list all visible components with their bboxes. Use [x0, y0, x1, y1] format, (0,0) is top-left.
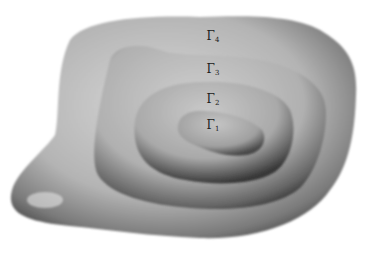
- level-label-gamma1: Γ1: [207, 118, 220, 133]
- surface-highlight: [27, 192, 63, 208]
- terraced-surface-diagram: [0, 0, 378, 254]
- gamma-index: 4: [215, 36, 219, 44]
- gamma-index: 1: [215, 125, 219, 133]
- level-label-gamma4: Γ4: [207, 29, 220, 44]
- gamma-index: 3: [215, 69, 219, 77]
- level-label-gamma3: Γ3: [207, 62, 220, 77]
- gamma-index: 2: [215, 99, 219, 107]
- level-label-gamma2: Γ2: [207, 92, 220, 107]
